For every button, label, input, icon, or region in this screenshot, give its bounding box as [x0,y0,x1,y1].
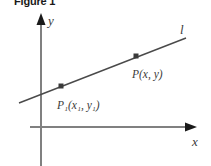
point-label-p1: P₁(x₁, y₁) [56,99,100,112]
y-axis-label: y [46,13,54,28]
point-marker-p1 [59,84,64,89]
coordinate-plane-diagram: y x l P₁(x₁, y₁) P(x, y) [0,0,211,166]
line-label-l: l [180,22,184,37]
x-axis-label: x [191,134,198,149]
figure-container: Figure 1 y x l P₁(x₁, y₁) P(x, y) [0,0,211,166]
point-marker-p [134,54,139,59]
y-axis-arrowhead [37,13,46,25]
point-label-p1-text: P₁(x₁, y₁) [56,99,100,112]
x-axis-arrowhead [185,123,197,132]
point-label-p: P(x, y) [131,68,163,81]
point-label-p-text: P(x, y) [131,68,163,81]
